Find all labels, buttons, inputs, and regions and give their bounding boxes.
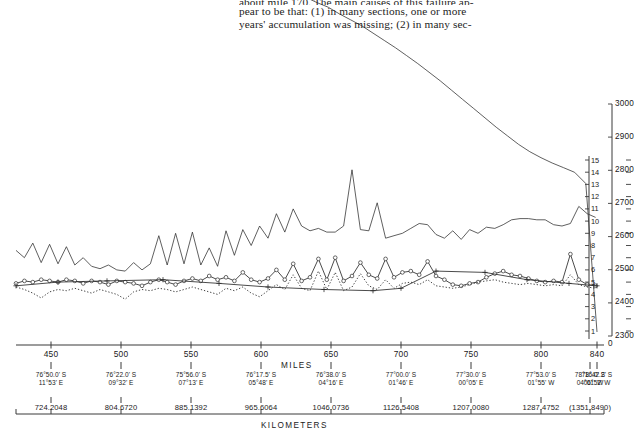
series-dotted-series [16, 271, 596, 299]
miles-tick-label: 450 [31, 349, 71, 359]
coordinate-label: 76°50.0' S11°53' E [20, 371, 82, 386]
coordinate-latitude: 75°56.0' S [176, 371, 206, 378]
miles-axis-title: MILES [281, 361, 313, 370]
coordinate-longitude: 00°05' E [459, 379, 484, 386]
coordinate-latitude: 77°00.0' S [386, 371, 416, 378]
inner-right-tick-label: 4 [591, 290, 595, 299]
miles-tick-label: 550 [171, 349, 211, 359]
coordinate-label: 77°00.0' S01°46' E [370, 371, 432, 386]
miles-tick-label: 600 [241, 349, 281, 359]
inner-right-tick-label: 13 [591, 180, 599, 189]
coordinate-latitude: 78°42.2' S [582, 371, 612, 378]
outer-right-tick-label: 2800 [615, 165, 634, 174]
series-surface-elevation [16, 0, 597, 332]
coordinate-longitude: 01°55' W [528, 379, 555, 386]
inner-right-tick-label: 11 [591, 204, 599, 213]
inner-right-tick-label: 12 [591, 192, 599, 201]
series-upper-zigzag-series [16, 170, 596, 271]
outer-right-tick-label: 2700 [615, 198, 634, 207]
series-open-circle-series [14, 252, 597, 287]
coordinate-latitude: 76°17.5' S [246, 371, 276, 378]
coordinate-latitude: 76°38.0' S [316, 371, 346, 378]
kilometer-label: 885.1392 [156, 403, 226, 412]
inner-right-tick-label: 6 [591, 265, 595, 274]
outer-right-tick-label: 2500 [615, 264, 634, 273]
miles-tick-label: 650 [311, 349, 351, 359]
kilometer-label: 1207.0080 [436, 403, 506, 412]
coordinate-latitude: 76°22.0' S [106, 371, 136, 378]
kilometer-label: 1046.0736 [296, 403, 366, 412]
inner-right-tick-label: 9 [591, 229, 595, 238]
kilometers-axis-title: KILOMETERS [261, 421, 328, 430]
miles-tick-label: 500 [101, 349, 141, 359]
outer-right-tick-label: 3000 [615, 99, 634, 108]
coordinate-longitude: 07°13' E [179, 379, 204, 386]
coordinate-latitude: 77°30.0' S [456, 371, 486, 378]
coordinate-longitude: 01°46' E [389, 379, 414, 386]
series-plus-marker-trend [13, 269, 599, 294]
outer-right-tick-label: 2400 [615, 297, 634, 306]
inner-right-tick-label: 8 [591, 241, 595, 250]
coordinate-longitude: 04°16' E [319, 379, 344, 386]
kilometer-label: 804.6720 [86, 403, 156, 412]
inner-right-tick-label: 1 [591, 327, 595, 336]
coordinate-label: 76°38.0' S04°16' E [300, 371, 362, 386]
coordinate-label: 76°17.5' S05°48' E [230, 371, 292, 386]
coordinate-longitude: 05°48' E [249, 379, 274, 386]
coordinate-latitude: 76°50.0' S [36, 371, 66, 378]
coordinate-longitude: 11°53' E [39, 379, 63, 386]
inner-right-tick-label: 7 [591, 253, 595, 262]
kilometer-label: (1351.8490) [555, 403, 625, 412]
kilometer-label: 965.6064 [226, 403, 296, 412]
coordinate-longitude: 06°52' W [584, 379, 611, 386]
miles-axis-zero-label: 0 [608, 339, 613, 348]
inner-right-tick-label: 5 [591, 278, 595, 287]
miles-tick-label: 750 [451, 349, 491, 359]
outer-right-tick-label: 2900 [615, 132, 634, 141]
outer-right-tick-label: 2600 [615, 231, 634, 240]
outer-right-tick-label: 2300 [615, 331, 634, 340]
miles-tick-label: 800 [521, 349, 561, 359]
inner-right-tick-label: 10 [591, 217, 599, 226]
miles-tick-label: 840 [577, 349, 617, 359]
kilometer-label: 1126.5408 [366, 403, 436, 412]
coordinate-label: 76°22.0' S09°32' E [90, 371, 152, 386]
inner-right-tick-label: 14 [591, 168, 599, 177]
coordinate-label: 75°56.0' S07°13' E [160, 371, 222, 386]
coordinate-label: 77°30.0' S00°05' E [440, 371, 502, 386]
kilometer-label: 724.2048 [16, 403, 86, 412]
inner-right-tick-label: 3 [591, 302, 595, 311]
inner-right-tick-label: 2 [591, 314, 595, 323]
coordinate-latitude: 77°53.0' S [526, 371, 556, 378]
coordinate-label: 78°42.2' S06°52' W [566, 371, 628, 386]
inner-right-tick-label: 15 [591, 156, 599, 165]
coordinate-longitude: 09°32' E [109, 379, 134, 386]
miles-tick-label: 700 [381, 349, 421, 359]
